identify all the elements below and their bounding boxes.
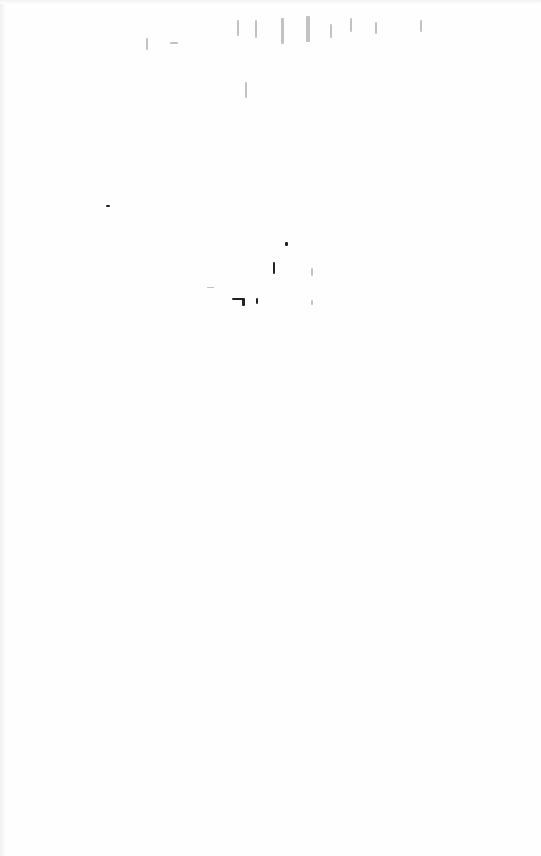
- ink-mark: [350, 18, 352, 32]
- page-edge-shadow-top: [0, 0, 541, 4]
- ink-mark: [207, 287, 214, 288]
- ink-mark: [242, 298, 245, 306]
- ink-mark: [306, 16, 310, 42]
- ink-mark: [420, 20, 422, 32]
- page-edge-shadow-left: [0, 0, 6, 856]
- ink-mark: [106, 205, 110, 207]
- ink-mark: [255, 20, 257, 38]
- ink-mark: [311, 268, 313, 276]
- ink-mark: [256, 298, 258, 304]
- scanned-page: [0, 0, 541, 856]
- ink-mark: [330, 24, 332, 38]
- ink-mark: [170, 42, 178, 44]
- ink-mark: [273, 262, 275, 274]
- ink-mark: [285, 242, 288, 246]
- ink-mark: [311, 300, 313, 305]
- ink-mark: [245, 82, 247, 98]
- ink-mark: [237, 20, 239, 36]
- ink-mark: [146, 38, 148, 50]
- ink-mark: [375, 22, 377, 34]
- ink-mark: [281, 18, 284, 44]
